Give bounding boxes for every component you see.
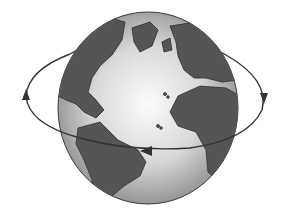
earth-globe — [58, 12, 240, 206]
arrowhead-right-icon — [260, 93, 268, 104]
globe-illustration — [0, 0, 282, 218]
globe-rotation-diagram — [0, 0, 282, 218]
arrowhead-left-icon — [22, 89, 30, 100]
